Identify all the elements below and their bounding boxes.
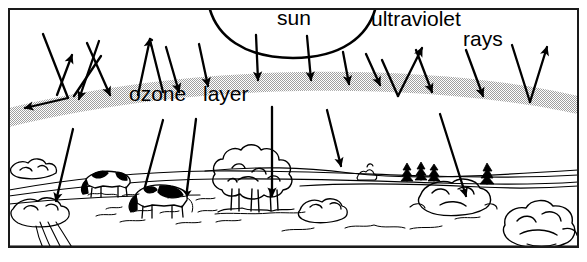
label-ultraviolet: ultraviolet xyxy=(371,7,461,30)
diagram-canvas: sun ultraviolet rays ozone layer xyxy=(0,0,587,262)
label-rays: rays xyxy=(463,27,503,50)
label-ozone: ozone xyxy=(129,82,186,105)
ozone-layer-illustration: sun ultraviolet rays ozone layer xyxy=(0,0,587,262)
label-layer: layer xyxy=(203,82,249,105)
